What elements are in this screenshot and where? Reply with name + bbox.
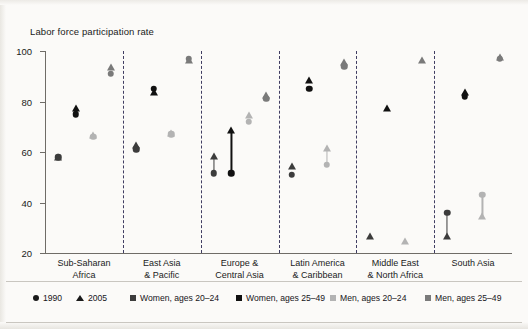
data-point-1990 [108,70,115,77]
data-point-2005 [461,89,469,96]
region-label: South Asia [452,258,495,270]
data-point-2005 [323,144,331,151]
data-point-2005 [210,152,218,159]
legend-series-item[interactable]: Men, ages 25–49 [425,293,501,303]
data-point-2005 [54,153,62,160]
data-point-2005 [150,89,158,96]
change-connector-line [231,132,232,174]
page-edge-shadow-top [0,0,528,5]
legend-series-label: Women, ages 25–49 [246,293,325,303]
y-axis-tick [40,203,45,204]
region-label: Middle East& North Africa [367,258,423,281]
data-point-1990 [479,192,486,199]
data-point-1990 [72,111,79,118]
data-point-1990 [288,171,295,178]
region-divider [434,51,435,253]
region-label: Europe &Central Asia [215,258,264,281]
legend-series-label: Women, ages 20–24 [140,293,219,303]
y-axis-tick [40,253,45,254]
y-axis-tick-label: 20 [21,248,32,259]
page-edge-shadow-bottom [0,322,528,329]
legend-series-label: Men, ages 20–24 [340,293,406,303]
region-divider [356,51,357,253]
y-axis-tick [40,102,45,103]
data-point-2005 [262,91,270,98]
data-point-2005 [443,233,451,240]
plot-area: 10080604020 [45,51,512,253]
page-edge-shadow-left [0,0,6,329]
chart-page: Labor force participation rate 100806040… [0,0,528,329]
y-axis-tick-label: 100 [16,46,32,57]
data-point-2005 [227,127,235,134]
data-point-2005 [245,112,253,119]
y-axis-tick [40,152,45,153]
chart-legend: 19902005Women, ages 20–24Women, ages 25–… [6,281,522,323]
y-axis-line [45,51,46,253]
region-label-line: Latin America [290,258,345,270]
legend-series-label: Men, ages 25–49 [435,293,501,303]
y-axis-tick [40,51,45,52]
region-label-line: Europe & [215,258,264,270]
data-point-2005 [401,238,409,245]
region-label-line: Sub-Saharan [57,258,110,270]
data-point-2005 [383,104,391,111]
data-point-2005 [496,54,504,61]
region-label-line: East Asia [143,258,181,270]
legend-year-item[interactable]: 1990 [33,293,62,303]
region-label-line: & North Africa [367,270,423,282]
data-point-1990 [444,209,451,216]
data-point-1990 [306,86,313,93]
data-point-1990 [211,170,218,177]
data-point-2005 [132,142,140,149]
legend-year-label: 1990 [43,293,62,303]
data-point-2005 [72,104,80,111]
legend-series-item[interactable]: Women, ages 25–49 [236,293,325,303]
region-divider [201,51,202,253]
y-axis-tick-label: 80 [21,96,32,107]
region-divider [123,51,124,253]
region-label-line: & Caribbean [290,270,345,282]
chart-axis-title: Labor force participation rate [30,26,154,37]
region-divider [279,51,280,253]
square-swatch-icon [425,295,431,301]
legend-series-item[interactable]: Women, ages 20–24 [130,293,219,303]
region-label: Sub-SaharanAfrica [57,258,110,281]
region-label-line: Africa [57,270,110,282]
data-point-2005 [418,56,426,63]
data-point-2005 [478,213,486,220]
y-axis-tick-label: 40 [21,197,32,208]
square-swatch-icon [330,295,336,301]
legend-year-label: 2005 [88,293,107,303]
data-point-1990 [324,161,331,168]
data-point-2005 [185,56,193,63]
data-point-1990 [246,118,253,125]
data-point-2005 [89,132,97,139]
data-point-2005 [340,59,348,66]
data-point-2005 [366,233,374,240]
square-swatch-icon [130,295,136,301]
triangle-marker-icon [76,295,84,301]
region-label-line: Central Asia [215,270,264,282]
data-point-2005 [107,64,115,71]
x-axis-line [45,253,512,254]
square-swatch-icon [236,295,242,301]
y-axis-tick-label: 60 [21,147,32,158]
region-label-line: & Pacific [143,270,181,282]
region-label-line: South Asia [452,258,495,270]
circle-marker-icon [33,295,39,301]
region-label-line: Middle East [367,258,423,270]
region-label: Latin America& Caribbean [290,258,345,281]
data-point-2005 [288,162,296,169]
legend-year-item[interactable]: 2005 [76,293,107,303]
data-point-1990 [228,170,235,177]
data-point-2005 [167,129,175,136]
data-point-2005 [305,76,313,83]
region-label: East Asia& Pacific [143,258,181,281]
legend-series-item[interactable]: Men, ages 20–24 [330,293,406,303]
